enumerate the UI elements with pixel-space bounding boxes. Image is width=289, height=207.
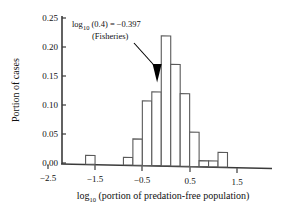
histogram-bar	[86, 155, 95, 164]
y-tick-label-4: 0.20	[42, 42, 58, 52]
y-tick-label-3: 0.15	[42, 71, 58, 81]
x-tick-label-3: 0.5	[184, 176, 196, 186]
histogram-bar	[218, 152, 227, 167]
annotation-line1: log10 (0.4) = −0.397	[72, 19, 141, 31]
y-axis-title: Portion of cases	[10, 58, 21, 122]
y-tick-label-2: 0.10	[42, 100, 58, 110]
annotation-log-text: log	[72, 19, 84, 29]
x-tick-label-2: −0.5	[134, 175, 151, 185]
x-tick-label-1: −1.5	[87, 174, 104, 184]
annotation-arrow-head-icon	[153, 64, 162, 83]
x-axis-title: log10 (portion of predation-free populat…	[77, 190, 250, 203]
x-tick-label-4: 1.5	[231, 177, 243, 187]
x-tick-label-0: −2.5	[40, 173, 57, 183]
histogram-bar	[123, 157, 132, 165]
annotation-log-rest: (0.4) = −0.397	[89, 19, 140, 29]
y-tick-label-0: 0.00	[42, 158, 58, 168]
chart-canvas: 0.00 0.05 0.10 0.15 0.20 0.25 −2.5 −1.5 …	[0, 0, 289, 207]
histogram-bar	[171, 64, 180, 166]
histogram-bar	[152, 92, 161, 166]
histogram-bar	[161, 36, 170, 166]
histogram-figure: 0.00 0.05 0.10 0.15 0.20 0.25 −2.5 −1.5 …	[0, 0, 289, 207]
histogram-bar	[199, 161, 208, 167]
annotation-line2: (Fisheries)	[92, 31, 129, 41]
x-axis-title-rest: (portion of predation-free population)	[96, 190, 249, 202]
x-axis-title-log: log	[77, 190, 90, 201]
y-tick-label-5: 0.25	[42, 13, 58, 23]
histogram-bar	[142, 101, 151, 166]
histogram-bar	[180, 94, 189, 167]
histogram-bars	[86, 36, 228, 167]
histogram-bar	[190, 132, 199, 166]
histogram-bar	[133, 139, 142, 165]
y-tick-label-1: 0.05	[42, 129, 58, 139]
histogram-bar	[209, 161, 218, 167]
